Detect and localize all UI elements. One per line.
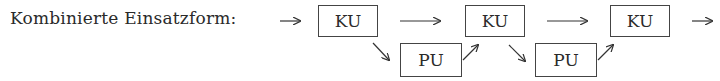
node-pu-2-label: PU — [553, 50, 578, 70]
node-pu-1: PU — [400, 43, 462, 77]
node-ku-2: KU — [465, 5, 525, 37]
node-ku-1: KU — [318, 5, 378, 37]
node-ku-2-label: KU — [482, 11, 508, 31]
node-pu-2: PU — [535, 43, 597, 77]
arrow-ku2-pu2-icon — [509, 45, 525, 61]
arrow-ku1-pu1-icon — [373, 43, 389, 60]
node-pu-1-label: PU — [418, 50, 443, 70]
node-ku-1-label: KU — [335, 11, 361, 31]
arrow-pu2-ku3-icon — [598, 45, 613, 60]
node-ku-3-label: KU — [627, 11, 653, 31]
arrow-pu1-ku2-icon — [463, 45, 478, 60]
node-ku-3: KU — [610, 5, 670, 37]
